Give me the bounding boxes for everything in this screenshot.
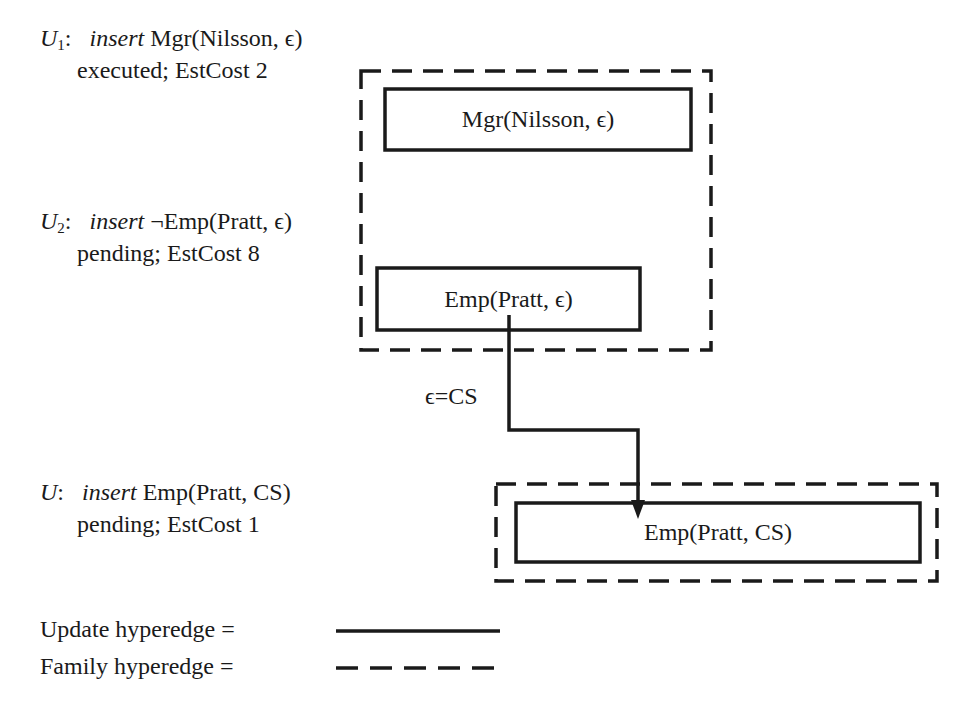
legend-family-label: Family hyperedge = (40, 652, 234, 680)
update-u-op: insert (82, 479, 137, 505)
update-u2-header: U2: insert ¬Emp(Pratt, ϵ) (40, 207, 292, 242)
update-u1-literal: Mgr(Nilsson, ϵ) (150, 25, 302, 51)
update-u-name: U (40, 479, 57, 505)
update-u-status: pending; EstCost 1 (77, 510, 260, 538)
update-u1-op: insert (90, 25, 145, 51)
update-u2-op: insert (90, 208, 145, 234)
legend-update-label: Update hyperedge = (40, 615, 235, 643)
update-hyperedge-arrow (509, 315, 638, 502)
update-u2-literal: ¬Emp(Pratt, ϵ) (150, 208, 292, 234)
update-u2-subscript: 2 (57, 220, 65, 236)
node-mgr-nilsson: Mgr(Nilsson, ϵ) (385, 105, 691, 133)
update-u2-name: U (40, 208, 57, 234)
update-u-header: U: insert Emp(Pratt, CS) (40, 478, 291, 506)
edge-label-eps-cs: ϵ=CS (425, 382, 478, 410)
update-u1-name: U (40, 25, 57, 51)
update-u2-status: pending; EstCost 8 (77, 239, 260, 267)
arrowhead-icon (631, 500, 645, 519)
update-u-colon: : (57, 479, 64, 505)
node-emp-pratt-eps: Emp(Pratt, ϵ) (377, 285, 640, 313)
update-u1-subscript: 1 (57, 37, 65, 53)
update-u1-header: U1: insert Mgr(Nilsson, ϵ) (40, 24, 303, 59)
update-u1-status: executed; EstCost 2 (77, 56, 268, 84)
node-emp-pratt-cs: Emp(Pratt, CS) (516, 518, 920, 546)
update-u-literal: Emp(Pratt, CS) (143, 479, 291, 505)
update-u2-colon: : (65, 208, 72, 234)
update-u1-colon: : (65, 25, 72, 51)
